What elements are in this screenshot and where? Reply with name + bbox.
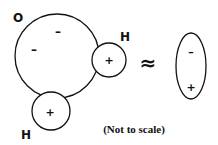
hydrogen-right-charge: +	[104, 54, 113, 67]
hydrogen-right-label: H	[120, 30, 130, 44]
water-molecule-diagram: – – O + H + H ≈ – + (Not to scale)	[0, 0, 218, 145]
oxygen-label: O	[13, 11, 23, 25]
dipole-positive-charge: +	[186, 81, 195, 94]
dipole-ellipse: – +	[176, 33, 206, 99]
oxygen-charge-2: –	[31, 43, 37, 57]
diagram-caption: (Not to scale)	[103, 123, 165, 136]
hydrogen-atom-right: +	[92, 43, 126, 77]
hydrogen-atom-bottom: +	[32, 92, 70, 130]
oxygen-charge-1: –	[55, 25, 61, 39]
hydrogen-bottom-label: H	[21, 128, 31, 142]
dipole-negative-charge: –	[188, 46, 194, 59]
oxygen-atom: – –	[15, 14, 99, 98]
hydrogen-bottom-charge: +	[45, 106, 54, 119]
approx-equal-symbol: ≈	[140, 51, 157, 75]
